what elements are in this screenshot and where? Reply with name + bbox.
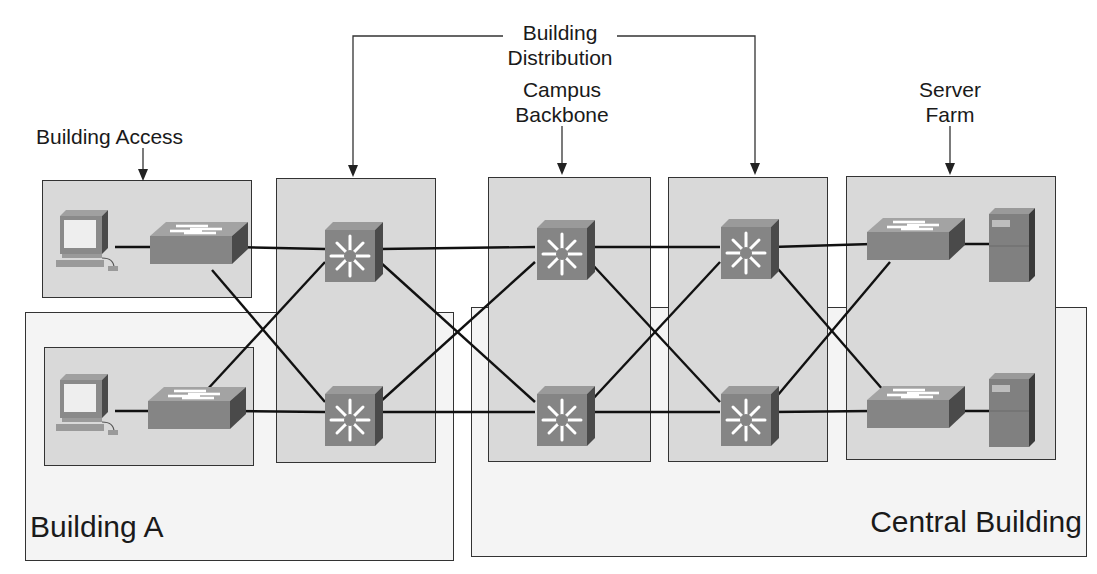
building-access-label: Building Access xyxy=(36,124,183,149)
server-farm-label: Server Farm xyxy=(900,77,1000,127)
campus-backbone-label-line1: Campus xyxy=(507,77,617,102)
campus-backbone-label-line2: Backbone xyxy=(507,102,617,127)
campus-backbone-label: Campus Backbone xyxy=(507,77,617,127)
server-farm-label-line1: Server xyxy=(900,77,1000,102)
central-building-label: Central Building xyxy=(870,505,1082,539)
server-farm-label-line2: Farm xyxy=(900,102,1000,127)
building-a-label: Building A xyxy=(30,510,163,544)
building-distribution-label: Building Distribution xyxy=(505,20,615,70)
building-distribution-label-line2: Distribution xyxy=(505,45,615,70)
callout-arrowheads xyxy=(138,163,955,181)
workstation-icons xyxy=(56,210,118,435)
server-icons xyxy=(989,208,1035,447)
building-distribution-label-line1: Building xyxy=(505,20,615,45)
